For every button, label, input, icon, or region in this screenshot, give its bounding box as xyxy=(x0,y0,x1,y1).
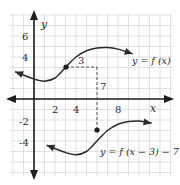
equation-original: y = f (x) xyxy=(131,55,171,66)
y-tick-4: 4 xyxy=(22,52,28,63)
x-axis-left-arrow-icon xyxy=(6,95,16,103)
y-axis-down-arrow-icon xyxy=(30,170,38,180)
curve-original-left-arrow-icon xyxy=(15,71,24,78)
point-transformed-6-neg4 xyxy=(94,127,99,132)
y-tick-neg2: -2 xyxy=(19,116,29,127)
x-axis-label: x xyxy=(150,102,157,115)
point-original-3-3 xyxy=(63,64,68,69)
equation-transformed: y = f (x − 3) − 7 xyxy=(99,146,180,157)
x-tick-2: 2 xyxy=(52,104,58,115)
horizontal-shift-label: 3 xyxy=(78,55,84,66)
x-tick-4: 4 xyxy=(73,104,79,115)
curve-transformed-left-arrow-icon xyxy=(47,145,56,152)
y-tick-6: 6 xyxy=(22,31,28,42)
y-tick-neg4: -4 xyxy=(19,137,29,148)
curve-transformed-right-arrow-icon xyxy=(143,118,151,125)
vertical-shift-label: 7 xyxy=(100,81,106,92)
x-tick-8: 8 xyxy=(115,104,121,115)
y-axis-label: y xyxy=(40,18,48,31)
function-graph: 2 4 8 6 4 -2 -4 x y 3 7 y = f (x) y = f … xyxy=(0,0,180,185)
curve-original xyxy=(15,47,133,81)
x-axis-right-arrow-icon xyxy=(164,95,174,103)
